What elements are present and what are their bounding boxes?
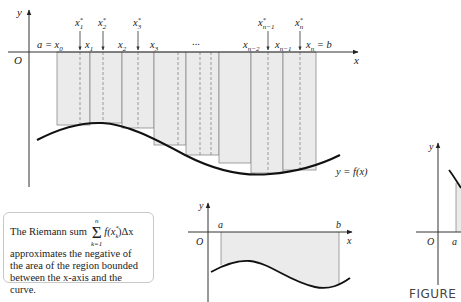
small-y-axis-label: y: [198, 200, 204, 211]
right-figure: y O a: [416, 141, 461, 285]
origin-label: O: [14, 54, 22, 66]
y-axis-label: y: [16, 6, 22, 18]
partition-label-x3: x3: [149, 39, 159, 53]
sample-label-1: x*1: [74, 17, 83, 31]
right-function-curve: [449, 170, 461, 188]
partition-label-xn: xn = b: [305, 39, 332, 53]
sample-point-labels: x*1 x*2 x*3 x*n−1 x*n: [74, 17, 304, 31]
partition-label-xn-2: xn−2: [242, 39, 260, 53]
small-x-axis-label: x: [346, 235, 352, 246]
note-body: approximates the negative of the area of…: [10, 248, 147, 296]
partition-label-ellipsis: ...: [192, 36, 200, 47]
rectangle-2: [90, 52, 122, 123]
riemann-sum-note: The Riemann sum n Σ k=1 f(x*k)Δx approxi…: [3, 212, 154, 283]
curve-label: y = f(x): [335, 166, 368, 178]
main-figure: y x O a = x0 x1 x2 x3 ... xn−2 xn−1 xn =…: [8, 6, 368, 187]
rectangle-8: [283, 52, 316, 170]
rectangle-7: [251, 52, 283, 173]
partition-label-xn-1: xn−1: [274, 39, 291, 53]
rectangle-5: [186, 52, 219, 155]
sample-label-n-1: x*n−1: [257, 17, 274, 31]
note-prefix: The Riemann sum: [10, 226, 87, 238]
partition-label-x0: a = x0: [37, 39, 63, 53]
sample-label-n: x*n: [294, 17, 304, 31]
partition-label-x2: x2: [117, 39, 127, 53]
rectangle-1: [57, 52, 90, 125]
sigma-notation: n Σ k=1: [91, 217, 102, 248]
right-shaded-region: [456, 183, 461, 232]
sample-label-2: x*2: [97, 17, 107, 31]
small-origin-label: O: [196, 236, 203, 247]
note-summand: f(x*k)Δx: [104, 222, 133, 242]
small-shaded-region: [221, 232, 339, 288]
sigma-lower: k=1: [91, 240, 102, 248]
partition-label-x1: x1: [84, 39, 93, 53]
partition-labels: a = x0 x1 x2 x3 ... xn−2 xn−1 xn = b: [37, 36, 332, 53]
sigma-symbol: Σ: [92, 225, 102, 240]
sample-arrows: [80, 31, 300, 50]
small-figure: y x O a b: [188, 200, 352, 302]
figure-caption: FIGURE: [409, 287, 456, 301]
rectangle-4: [154, 52, 186, 145]
small-bound-b: b: [336, 219, 341, 230]
sample-label-3: x*3: [132, 17, 142, 31]
rectangle-6: [219, 52, 251, 163]
x-axis-label: x: [353, 54, 359, 66]
right-y-axis-label: y: [428, 141, 434, 152]
right-bound-a: a: [452, 236, 457, 247]
right-origin-label: O: [427, 236, 434, 247]
small-bound-a: a: [218, 219, 223, 230]
note-formula-line: The Riemann sum n Σ k=1 f(x*k)Δx: [10, 217, 147, 247]
